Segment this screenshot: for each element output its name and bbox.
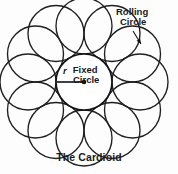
- rolling-circle: [28, 6, 84, 62]
- fixed-circle-label: Fixed Circle: [71, 65, 99, 84]
- cardioid-svg: [0, 0, 178, 174]
- rolling-circle: [8, 26, 64, 82]
- rolling-circle-label: Rolling Circle: [116, 7, 148, 26]
- radius-symbol-label: r: [63, 66, 67, 76]
- cardioid-figure: Rolling Circle r Fixed Circle The Cardio…: [0, 0, 178, 174]
- fixed-circle-label-line2: Circle: [71, 75, 99, 85]
- figure-caption: The Cardioid: [0, 152, 178, 163]
- rolling-circle: [56, 0, 112, 54]
- rolling-circle-label-line2: Circle: [116, 17, 148, 27]
- rolling-circle: [105, 82, 161, 138]
